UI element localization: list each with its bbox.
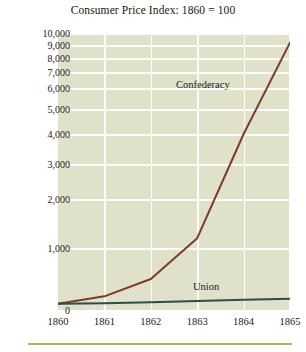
x-tick-label-1864: 1864 <box>222 316 266 327</box>
bottom-rule <box>28 343 292 345</box>
series-label-union: Union <box>193 281 219 292</box>
y-tick-label-7000: 7,000 <box>18 67 70 78</box>
x-tick-label-1861: 1861 <box>82 316 126 327</box>
y-tick-label-5000: 5,000 <box>18 104 70 115</box>
y-tick-label-2000: 2,000 <box>18 194 70 205</box>
chart-title: Consumer Price Index: 1860 = 100 <box>0 4 306 16</box>
chart-figure: Consumer Price Index: 1860 = 100 Confede… <box>0 0 306 352</box>
series-lines <box>58 33 290 310</box>
x-tick-label-1860: 1860 <box>36 316 80 327</box>
series-line-confederacy <box>58 43 290 304</box>
y-tick-label-0: 0 <box>18 305 70 316</box>
y-tick-label-4000: 4,000 <box>18 129 70 140</box>
series-label-confederacy: Confederacy <box>176 79 230 90</box>
x-tick-label-1863: 1863 <box>175 316 219 327</box>
y-tick-label-9000: 9,000 <box>18 40 70 51</box>
y-tick-label-1000: 1,000 <box>18 243 70 254</box>
y-tick-label-8000: 8,000 <box>18 53 70 64</box>
x-tick-label-1862: 1862 <box>129 316 173 327</box>
y-tick-label-3000: 3,000 <box>18 159 70 170</box>
x-tick-label-1865: 1865 <box>268 316 306 327</box>
y-tick-label-6000: 6,000 <box>18 83 70 94</box>
plot-area <box>58 33 290 310</box>
series-line-union <box>58 299 290 304</box>
y-tick-label-10000: 10,000 <box>18 28 70 39</box>
